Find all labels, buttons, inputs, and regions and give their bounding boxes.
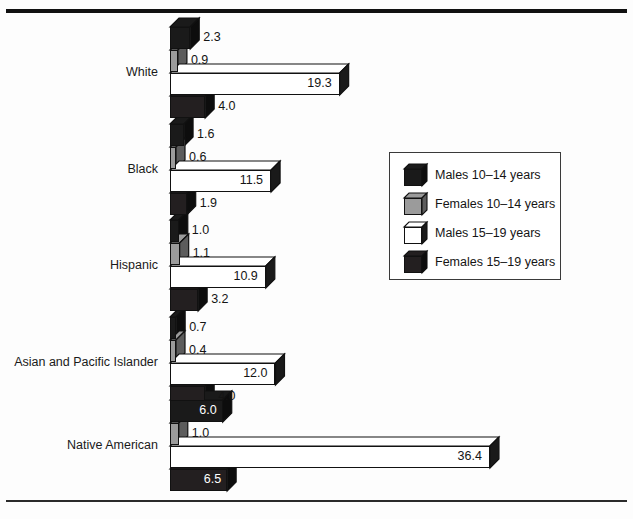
bar-face xyxy=(170,317,176,339)
white-cube-icon xyxy=(404,222,426,244)
bar-value-label: 10.9 xyxy=(224,270,258,283)
bar-face xyxy=(170,340,176,362)
bar-value-label: 1.9 xyxy=(200,197,217,210)
bar xyxy=(170,423,179,445)
bar-value-label: 0.4 xyxy=(189,344,206,357)
chart-legend: Males 10–14 yearsFemales 10–14 yearsMale… xyxy=(389,152,561,280)
bar-face xyxy=(170,193,187,215)
gray-cube-icon xyxy=(404,193,426,215)
black-cube-icon xyxy=(404,164,426,186)
bar xyxy=(170,96,205,118)
bar-value-label: 4.0 xyxy=(218,390,235,403)
legend-label: Males 15–19 years xyxy=(435,226,541,240)
bar-value-label: 0.6 xyxy=(189,151,206,164)
bar-value-label: 1.0 xyxy=(192,427,209,440)
bar xyxy=(170,446,490,468)
bar-face xyxy=(170,243,180,265)
bar-value-label: 11.5 xyxy=(229,174,263,187)
legend-label: Males 10–14 years xyxy=(435,168,541,182)
bar-face xyxy=(170,27,190,49)
bar-face xyxy=(170,147,176,169)
legend-item: Females 15–19 years xyxy=(404,251,555,273)
legend-item: Males 10–14 years xyxy=(404,164,541,186)
legend-swatch-face xyxy=(404,256,422,273)
bar-value-label: 0.9 xyxy=(191,54,208,67)
legend-swatch-face xyxy=(404,198,422,215)
legend-label: Females 10–14 years xyxy=(435,197,555,211)
bar-value-label: 12.0 xyxy=(233,367,267,380)
bar xyxy=(170,50,178,72)
bar-face xyxy=(170,289,198,311)
bar-value-label: 3.2 xyxy=(211,293,228,306)
bar-value-label: 1.6 xyxy=(197,128,214,141)
bar xyxy=(170,147,176,169)
bar-face xyxy=(170,446,490,468)
bar-value-label: 1.1 xyxy=(193,247,210,260)
bar xyxy=(170,340,176,362)
legend-item: Males 15–19 years xyxy=(404,222,541,244)
bar-value-label: 6.0 xyxy=(183,404,217,417)
bar-value-label: 2.3 xyxy=(203,31,220,44)
category-label: White xyxy=(0,65,158,79)
bar-value-label: 19.3 xyxy=(298,77,332,90)
bar-value-label: 36.4 xyxy=(448,450,482,463)
bar xyxy=(170,193,187,215)
bar-value-label: 1.0 xyxy=(192,224,209,237)
bar-face xyxy=(170,124,184,146)
category-label: Native American xyxy=(0,438,158,452)
figure-container: White2.30.919.34.0Black1.60.611.51.9Hisp… xyxy=(0,0,633,519)
bar xyxy=(170,124,184,146)
bar xyxy=(170,27,190,49)
bar xyxy=(170,243,180,265)
bar-face xyxy=(170,96,205,118)
bar-face xyxy=(170,220,179,242)
bar-value-label: 0.7 xyxy=(189,321,206,334)
bar xyxy=(170,220,179,242)
category-label: Asian and Pacific Islander xyxy=(0,355,158,369)
bar-value-label: 6.5 xyxy=(187,473,221,486)
bar-face xyxy=(170,423,179,445)
bar xyxy=(170,289,198,311)
category-label: Hispanic xyxy=(0,258,158,272)
bar-face xyxy=(170,50,178,72)
category-label: Black xyxy=(0,162,158,176)
bar xyxy=(170,317,176,339)
bar-value-label: 4.0 xyxy=(218,100,235,113)
legend-swatch-face xyxy=(404,227,422,244)
dark-cube-icon xyxy=(404,251,426,273)
legend-item: Females 10–14 years xyxy=(404,193,555,215)
legend-label: Females 15–19 years xyxy=(435,255,555,269)
legend-swatch-face xyxy=(404,169,422,186)
